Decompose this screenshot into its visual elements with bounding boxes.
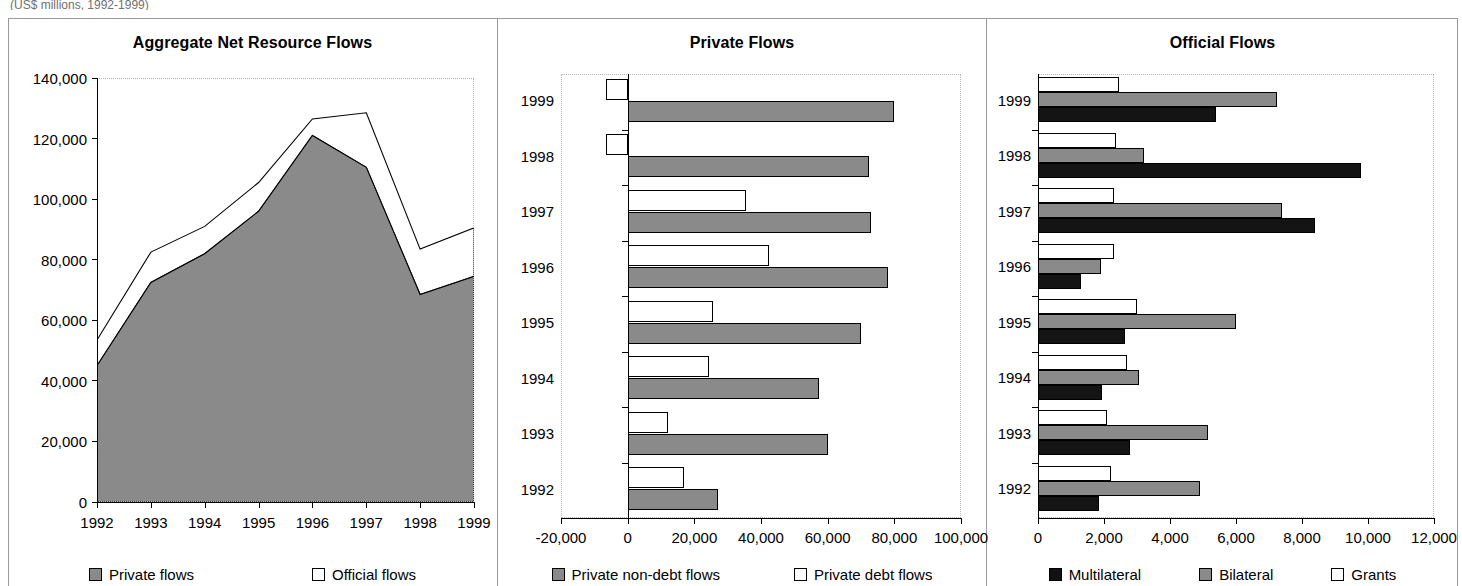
y-tick: [92, 441, 98, 442]
bar-bilateral: [1038, 481, 1200, 496]
category-tick: [622, 463, 629, 464]
category-label-1998: 1998: [498, 147, 554, 164]
y-tick-label: 60,000: [41, 312, 87, 329]
category-tick: [622, 296, 629, 297]
bar-bilateral: [1038, 425, 1208, 440]
category-label-1996: 1996: [987, 258, 1031, 275]
bar-private-non-debt-flows: [628, 267, 888, 288]
y-tick-label: 20,000: [41, 433, 87, 450]
category-label-1997: 1997: [498, 203, 554, 220]
y-tick: [92, 199, 98, 200]
y-tick: [92, 259, 98, 260]
x-tick-label: 1993: [134, 514, 167, 531]
x-tick: [961, 518, 962, 524]
bar-multilateral: [1038, 163, 1361, 178]
y-axis-line: [97, 78, 98, 502]
panel-2-plot-area: [561, 74, 961, 518]
x-tick-label: 60,000: [805, 529, 851, 546]
x-tick-label: 1997: [350, 514, 383, 531]
x-tick-label: 40,000: [738, 529, 784, 546]
category-tick: [1032, 407, 1039, 408]
legend-label: Private debt flows: [814, 566, 932, 583]
category-tick: [622, 130, 629, 131]
bar-private-non-debt-flows: [628, 378, 820, 399]
legend-swatch-gray-icon: [89, 568, 102, 581]
x-tick: [366, 502, 367, 508]
x-axis-line: [97, 502, 475, 503]
category-label-1993: 1993: [498, 425, 554, 442]
panel-2-title: Private Flows: [498, 34, 986, 52]
x-tick-label: 1995: [242, 514, 275, 531]
legend-label: Bilateral: [1219, 566, 1273, 583]
category-tick: [622, 241, 629, 242]
x-tick: [151, 502, 152, 508]
bar-multilateral: [1038, 107, 1216, 122]
x-tick-label: 12,000: [1411, 529, 1457, 546]
x-tick-label: 6,000: [1217, 529, 1255, 546]
x-tick: [259, 502, 260, 508]
legend-item-private-debt-flows: Private debt flows: [794, 566, 932, 583]
bar-private-non-debt-flows: [628, 434, 828, 455]
category-label-1998: 1998: [987, 147, 1031, 164]
x-tick-label: 1999: [457, 514, 490, 531]
legend-item-official-flows: Official flows: [312, 566, 416, 583]
panel-3-legend: MultilateralBilateralGrants: [987, 566, 1458, 583]
legend-swatch-white-icon: [1331, 568, 1344, 581]
x-tick: [1104, 518, 1105, 524]
bar-private-non-debt-flows: [628, 156, 870, 177]
category-tick: [1032, 352, 1039, 353]
x-tick: [628, 518, 629, 524]
category-label-1996: 1996: [498, 258, 554, 275]
panel-1-legend: Private flowsOfficial flows: [8, 566, 497, 583]
category-label-1992: 1992: [987, 480, 1031, 497]
bar-grants: [1038, 410, 1107, 425]
legend-item-private-flows: Private flows: [89, 566, 194, 583]
x-tick: [312, 502, 313, 508]
category-label-1995: 1995: [987, 313, 1031, 330]
category-tick: [1032, 130, 1039, 131]
x-tick: [205, 502, 206, 508]
x-tick-label: 100,000: [934, 529, 988, 546]
x-tick: [420, 502, 421, 508]
x-tick-label: 20,000: [671, 529, 717, 546]
x-tick: [1302, 518, 1303, 524]
bar-bilateral: [1038, 370, 1139, 385]
legend-item-bilateral: Bilateral: [1199, 566, 1273, 583]
y-tick-label: 100,000: [33, 191, 87, 208]
y-tick-label: 140,000: [33, 70, 87, 87]
x-tick-label: 2,000: [1085, 529, 1123, 546]
category-tick: [622, 352, 629, 353]
x-tick: [894, 518, 895, 524]
legend-swatch-black-icon: [1049, 568, 1062, 581]
category-tick: [1032, 463, 1039, 464]
panel-2-legend: Private non-debt flowsPrivate debt flows: [498, 566, 986, 583]
bar-grants: [1038, 244, 1114, 259]
bar-private-debt-flows: [628, 190, 746, 211]
panel-private-flows: Private Flows 19991998199719961995199419…: [498, 18, 986, 586]
bar-bilateral: [1038, 203, 1282, 218]
bar-grants: [1038, 188, 1114, 203]
bar-grants: [1038, 77, 1119, 92]
y-tick: [92, 78, 98, 79]
y-tick: [92, 380, 98, 381]
bar-private-non-debt-flows: [628, 323, 861, 344]
panel-official-flows: Official Flows 1999199819971996199519941…: [987, 18, 1458, 586]
bar-grants: [1038, 133, 1116, 148]
y-tick: [92, 320, 98, 321]
category-label-1993: 1993: [987, 424, 1031, 441]
panel-1-title: Aggregate Net Resource Flows: [8, 34, 497, 52]
bar-multilateral: [1038, 329, 1125, 344]
category-tick: [1032, 296, 1039, 297]
bar-grants: [1038, 355, 1127, 370]
x-tick-label: 1998: [403, 514, 436, 531]
legend-label: Official flows: [332, 566, 416, 583]
bar-private-debt-flows: [628, 245, 770, 266]
category-label-1992: 1992: [498, 480, 554, 497]
category-label-1997: 1997: [987, 202, 1031, 219]
bar-grants: [1038, 466, 1111, 481]
panel-aggregate-net-resource-flows: Aggregate Net Resource Flows 020,00040,0…: [8, 18, 497, 586]
legend-label: Grants: [1351, 566, 1396, 583]
x-tick-label: 0: [623, 529, 631, 546]
x-tick: [1170, 518, 1171, 524]
legend-swatch-gray-icon: [1199, 568, 1212, 581]
